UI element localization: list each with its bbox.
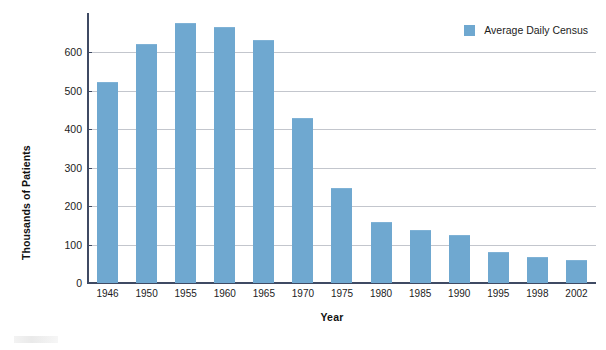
x-tick-label-1960: 1960 [203,288,247,299]
x-tick-label-1995: 1995 [476,288,520,299]
bar[interactable] [214,27,235,283]
bar-chart-figure: Thousands of Patients 010020030040050060… [0,0,606,350]
y-axis-tick-label-group: 0100200300400500600 [38,0,82,350]
scan-artifact [14,336,58,343]
bar-slot [322,14,361,283]
x-tick-label-1980: 1980 [359,288,403,299]
bar-slot [205,14,244,283]
y-tick-label-500: 500 [42,85,82,97]
y-tick-mark-100 [88,245,92,246]
bar-slot [557,14,596,283]
bar-slot [362,14,401,283]
legend-color-swatch [464,25,475,36]
bar[interactable] [292,118,313,283]
bar[interactable] [136,44,157,283]
chart-legend: Average Daily Census [464,24,588,36]
bar-slot [166,14,205,283]
x-tick-label-1990: 1990 [437,288,481,299]
y-tick-mark-400 [88,129,92,130]
y-tick-label-400: 400 [42,123,82,135]
y-tick-label-100: 100 [42,239,82,251]
x-tick-label-2002: 2002 [554,288,598,299]
bar-slot [88,14,127,283]
y-tick-label-0: 0 [42,277,82,289]
bar[interactable] [175,23,196,283]
plot-area [88,14,596,283]
x-tick-label-1985: 1985 [398,288,442,299]
bar-slot [244,14,283,283]
bar[interactable] [253,40,274,283]
bar[interactable] [527,257,548,283]
bar-slot [479,14,518,283]
y-tick-label-600: 600 [42,46,82,58]
y-tick-mark-300 [88,168,92,169]
y-tick-mark-500 [88,91,92,92]
bar[interactable] [371,222,392,283]
bar-slot [440,14,479,283]
legend-label-average-daily-census: Average Daily Census [484,24,588,36]
bar[interactable] [97,82,118,283]
x-tick-label-1955: 1955 [164,288,208,299]
x-tick-label-1970: 1970 [281,288,325,299]
bar-slot [127,14,166,283]
y-tick-mark-600 [88,52,92,53]
y-tick-label-200: 200 [42,200,82,212]
bar[interactable] [566,260,587,283]
bar[interactable] [449,235,470,283]
y-tick-label-300: 300 [42,162,82,174]
x-axis-title: Year [0,311,606,323]
x-tick-label-1975: 1975 [320,288,364,299]
y-tick-mark-200 [88,206,92,207]
y-tick-mark-0 [88,283,92,284]
y-axis-title: Thousands of Patients [20,60,36,260]
x-tick-label-1950: 1950 [125,288,169,299]
bar-slot [283,14,322,283]
bar-slot [518,14,557,283]
bar[interactable] [488,252,509,283]
x-tick-label-1998: 1998 [515,288,559,299]
bar[interactable] [410,230,431,283]
x-tick-label-1965: 1965 [242,288,286,299]
bar-slot [401,14,440,283]
bar[interactable] [331,188,352,283]
x-tick-label-1946: 1946 [86,288,130,299]
